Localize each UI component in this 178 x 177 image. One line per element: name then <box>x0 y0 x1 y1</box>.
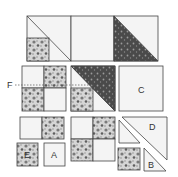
two-patch <box>20 117 64 139</box>
unit-F <box>22 66 66 111</box>
quilt-diagram: F C D A E B <box>0 0 178 177</box>
unit-center <box>71 66 115 111</box>
top-strip-corner-square <box>27 38 49 61</box>
top-strip <box>27 16 158 61</box>
four-patch <box>71 117 115 161</box>
label-A: A <box>51 150 57 160</box>
label-B: B <box>148 160 154 170</box>
label-C: C <box>138 85 145 95</box>
label-D: D <box>149 122 156 132</box>
label-E: E <box>24 150 30 160</box>
floral-square <box>118 148 140 170</box>
label-F: F <box>7 80 13 90</box>
top-strip-plain-square <box>71 16 114 61</box>
